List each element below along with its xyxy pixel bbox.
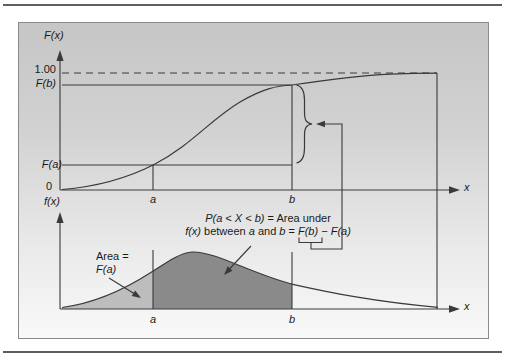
probability-annotation: P(a < X < b) = Area under f(x) between a… [182,212,354,237]
tick-label-fb: F(b) [28,77,56,89]
cdf-pdf-diagram [0,0,505,362]
top-x-axis-label: x [464,181,470,193]
bottom-horizontal-rule [3,351,502,353]
annotation-line-2: f(x) between a and b = F(b) − F(a) [182,225,354,238]
annotation-equals: = [285,225,298,237]
area-fa-label: Area = F(a) [96,250,129,276]
bottom-y-axis-label: f(x) [44,195,60,207]
tick-label-fa: F(a) [34,158,62,170]
cdf-curve [62,73,437,189]
origin-label: 0 [46,180,52,192]
top-y-axis-arrowhead [56,50,63,61]
area-fa-label-line2: F(a) [96,263,129,276]
bottom-b-label: b [287,313,297,325]
annotation-area-under-text: = Area under [264,212,330,224]
textbook-figure-page: F(x) 1.00 F(b) F(a) 0 a b x f(x) a b x A… [0,0,505,362]
area-fa-label-line1: Area = [96,250,129,263]
top-b-label: b [287,193,297,205]
formula-underbracket [299,238,322,243]
annotation-fx: f(x) [185,225,201,237]
tick-label-one: 1.00 [28,63,56,75]
annotation-prob-expression: P(a < X < b) [205,212,264,224]
difference-brace [297,85,313,163]
brace-arrowhead [316,121,325,127]
annotation-fb-minus-fa: F(b) − F(a) [298,225,351,237]
annotation-and: and [255,225,279,237]
bottom-a-label: a [148,313,158,325]
top-a-label: a [148,193,158,205]
annotation-line-1: P(a < X < b) = Area under [182,212,354,225]
bottom-y-axis-arrowhead [56,212,63,223]
bottom-x-axis-arrowhead [449,305,460,313]
annotation-between: between [201,225,249,237]
bottom-x-axis-label: x [464,300,470,312]
top-x-axis-arrowhead [449,186,460,194]
top-y-axis-label: F(x) [44,29,64,41]
